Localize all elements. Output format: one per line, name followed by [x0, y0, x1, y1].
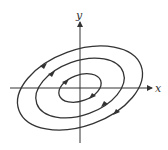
y-axis-label: y: [75, 9, 83, 22]
x-axis-label: x: [155, 82, 162, 95]
arrow-icon: [48, 71, 55, 77]
phase-portrait-diagram: x y: [0, 0, 168, 150]
